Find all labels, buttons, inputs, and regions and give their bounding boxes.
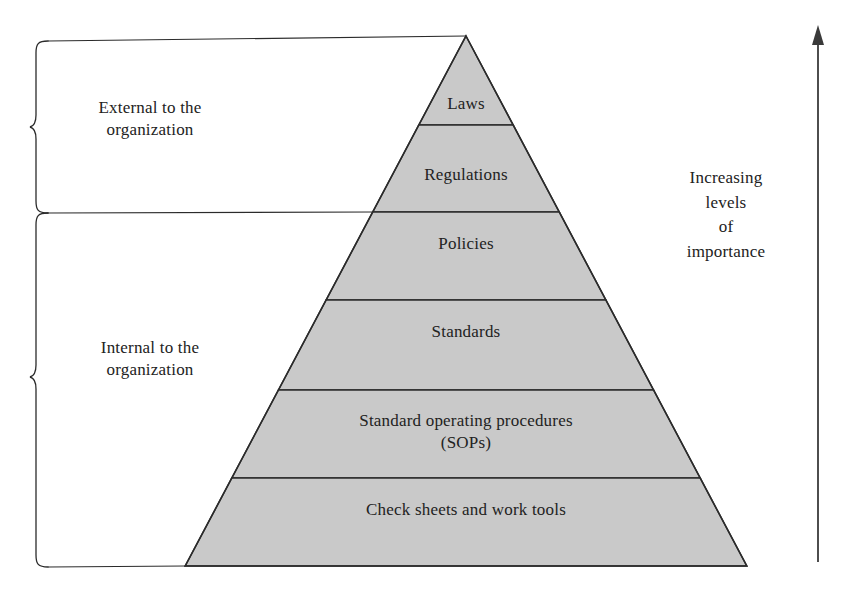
pyramid-hierarchy-figure: Laws Regulations Policies Standards Stan…: [0, 0, 855, 591]
group-divider-connector: [48, 212, 373, 213]
internal-group-brace-icon: [30, 213, 48, 567]
pyramid-shape: [185, 36, 747, 566]
pyramid-tier-label-regulations: Regulations: [366, 164, 566, 186]
pyramid-tier-check-sheets: [185, 478, 747, 566]
internal-group-bottom-connector: [48, 566, 185, 567]
pyramid-tier-label-sops: Standard operating procedures (SOPs): [306, 410, 626, 454]
pyramid-tier-label-laws: Laws: [366, 93, 566, 115]
pyramid-tier-label-policies: Policies: [366, 233, 566, 255]
pyramid-tier-policies: [326, 212, 606, 300]
pyramid-tier-standards: [278, 300, 653, 390]
up-arrow-icon: [812, 25, 824, 562]
internal-group-label: Internal to the organization: [40, 337, 260, 381]
pyramid-tier-label-standards: Standards: [366, 321, 566, 343]
external-group-top-connector: [48, 36, 466, 41]
external-group-label: External to the organization: [40, 97, 260, 141]
pyramid-tier-label-check-sheets: Check sheets and work tools: [316, 499, 616, 521]
importance-axis-label: Increasing levels of importance: [646, 166, 806, 265]
